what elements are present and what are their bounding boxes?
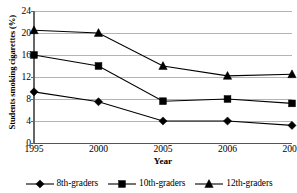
square-marker-icon [95, 63, 102, 70]
legend-item-8th-graders[interactable]: 8th-graders [25, 178, 99, 190]
plot-area [34, 11, 292, 143]
x-axis-tick-label: 2000 [76, 144, 122, 154]
y-axis-tick-label: 20 [13, 28, 31, 38]
triangle-marker-icon [288, 70, 296, 78]
square-marker-icon [31, 52, 38, 59]
legend-item-10th-graders[interactable]: 10th-graders [107, 178, 185, 190]
legend-label: 10th-graders [139, 179, 185, 188]
square-marker-icon [224, 96, 231, 103]
y-axis-tick-label: 24 [13, 6, 31, 16]
plot-svg [34, 11, 292, 143]
square-marker-icon [160, 98, 167, 105]
y-axis-tick-label: 8 [13, 94, 31, 104]
diamond-marker-icon [288, 121, 296, 129]
diamond-marker-icon [30, 88, 38, 96]
triangle-marker-icon [194, 178, 224, 190]
triangle-marker-icon [159, 62, 167, 70]
square-marker-icon [107, 178, 137, 190]
y-axis-tick-label: 16 [13, 50, 31, 60]
line-chart: Students smoking cigarettes (%) 04812162… [0, 0, 297, 193]
x-axis-title: Year [34, 157, 292, 166]
y-axis-tick-label: 12 [13, 72, 31, 82]
chart-legend: 8th-graders10th-graders12th-graders [0, 174, 297, 193]
legend-item-12th-graders[interactable]: 12th-graders [194, 178, 272, 190]
x-axis-tick-label: 2005 [140, 144, 186, 154]
x-axis-tick-label: 2007 [269, 144, 297, 154]
diamond-marker-icon [223, 117, 231, 125]
y-axis-tick-label: 4 [13, 116, 31, 126]
legend-label: 8th-graders [57, 179, 99, 188]
legend-label: 12th-graders [226, 179, 272, 188]
diamond-marker-icon [25, 178, 55, 190]
square-marker-icon [289, 100, 296, 107]
square-marker-icon [119, 180, 126, 187]
y-axis-tick-labels: 04812162024 [13, 0, 31, 193]
x-axis-tick-label: 1995 [11, 144, 57, 154]
diamond-marker-icon [159, 117, 167, 125]
diamond-marker-icon [35, 179, 43, 187]
x-axis-tick-label: 2006 [205, 144, 251, 154]
triangle-marker-icon [30, 26, 38, 34]
